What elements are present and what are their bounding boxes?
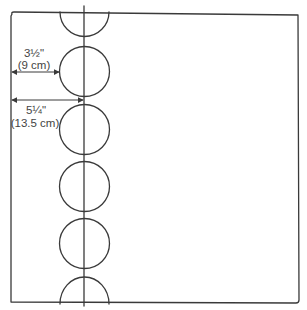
dimension-label-metric: (13.5 cm) (11, 117, 60, 129)
dimension-label-imperial: 3½" (24, 47, 44, 59)
dimension-label-metric: (9 cm) (18, 59, 51, 71)
fabric-outline (11, 12, 299, 303)
dimension-label-imperial: 5¼" (26, 104, 46, 116)
circle-layout-diagram: 3½" (9 cm) 5¼" (13.5 cm) (0, 0, 307, 310)
